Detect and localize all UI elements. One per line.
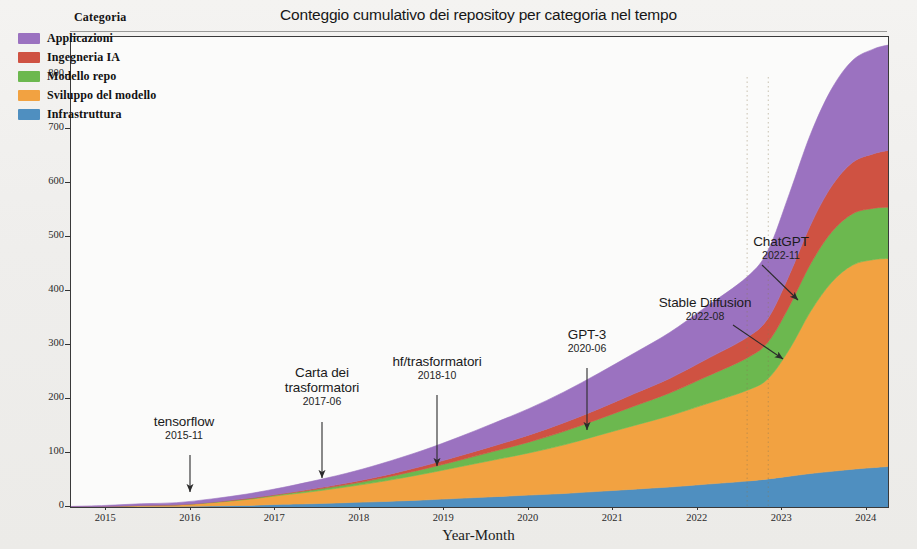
- chart-title: Conteggio cumulativo dei repositoy per c…: [70, 6, 887, 32]
- annotation-text-block: Stable Diffusion2022-08: [659, 295, 752, 323]
- annotation-date: 2022-08: [659, 310, 752, 323]
- legend-item[interactable]: Infrastruttura: [18, 105, 156, 124]
- annotation-name: ChatGPT: [753, 234, 809, 249]
- x-tick-label: 2024: [836, 512, 896, 523]
- legend-item[interactable]: Ingegneria IA: [18, 48, 156, 67]
- title-divider: [70, 31, 887, 32]
- y-tick-label: 100: [24, 445, 64, 456]
- annotation-date: 2018-10: [392, 369, 481, 382]
- y-tick-label: 500: [24, 229, 64, 240]
- legend-item[interactable]: Modello repo: [18, 67, 156, 86]
- y-tick-label: 300: [24, 337, 64, 348]
- legend-item-label: Applicazioni: [47, 31, 113, 46]
- legend-item-label: Modello repo: [47, 69, 116, 84]
- y-tick-label: 400: [24, 283, 64, 294]
- x-tick-label: 2016: [160, 512, 220, 523]
- x-tick-label: 2015: [75, 512, 135, 523]
- annotation-date: 2017-06: [285, 395, 359, 408]
- legend-item[interactable]: Sviluppo del modello: [18, 86, 156, 105]
- x-tick-label: 2022: [667, 512, 727, 523]
- legend-swatch: [18, 71, 40, 82]
- y-tick-label: 200: [24, 391, 64, 402]
- annotation-text-block: Carta deitrasformatori2017-06: [285, 365, 359, 408]
- x-axis-label: Year-Month: [70, 527, 887, 544]
- legend-swatch: [18, 52, 40, 63]
- x-tick-label: 2019: [413, 512, 473, 523]
- legend-item-label: Infrastruttura: [47, 107, 122, 122]
- legend-swatch: [18, 109, 40, 120]
- annotation-text-block: tensorflow2015-11: [154, 414, 215, 442]
- annotation-date: 2020-06: [568, 342, 607, 355]
- x-tick-label: 2018: [329, 512, 389, 523]
- legend: Categoria ApplicazioniIngegneria IAModel…: [12, 6, 166, 130]
- annotation-text-block: hf/trasformatori2018-10: [392, 354, 481, 382]
- annotation-name: hf/trasformatori: [392, 354, 481, 369]
- annotation-date: 2015-11: [154, 429, 215, 442]
- legend-item-label: Ingegneria IA: [47, 50, 120, 65]
- annotation-text-block: ChatGPT2022-11: [753, 234, 809, 262]
- chart-figure: Conteggio cumulativo dei repositoy per c…: [0, 0, 917, 549]
- x-tick-label: 2020: [498, 512, 558, 523]
- annotation-name: Carta dei: [285, 365, 359, 380]
- annotation-name: Stable Diffusion: [659, 295, 752, 310]
- x-tick-label: 2023: [751, 512, 811, 523]
- legend-title: Categoria: [44, 10, 156, 25]
- x-tick-label: 2021: [582, 512, 642, 523]
- annotation-text-block: GPT-32020-06: [568, 327, 607, 355]
- annotation-name: tensorflow: [154, 414, 215, 429]
- y-tick-label: 0: [24, 499, 64, 510]
- annotation-name: GPT-3: [568, 327, 607, 342]
- legend-item-label: Sviluppo del modello: [47, 88, 156, 103]
- annotation-date: 2022-11: [753, 249, 809, 262]
- y-tick-label: 600: [24, 175, 64, 186]
- x-tick-label: 2017: [244, 512, 304, 523]
- legend-swatch: [18, 33, 40, 44]
- legend-swatch: [18, 90, 40, 101]
- legend-item[interactable]: Applicazioni: [18, 29, 156, 48]
- annotation-name-cont: trasformatori: [285, 380, 359, 395]
- legend-items: ApplicazioniIngegneria IAModello repoSvi…: [18, 29, 156, 124]
